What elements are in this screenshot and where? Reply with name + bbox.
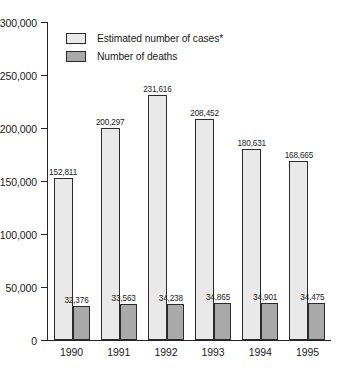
y-axis-tick: 100,000 [41, 234, 47, 235]
y-axis-tick: 250,000 [41, 75, 47, 76]
x-axis-label: 1992 [142, 346, 189, 358]
bar-value-label: 200,297 [96, 118, 125, 127]
y-axis-tick-label: 0 [31, 335, 37, 347]
bar-deaths: 34,475 [308, 303, 325, 340]
y-axis-tick-label: 100,000 [0, 229, 37, 241]
bar-group: 152,81132,376 [48, 22, 95, 340]
bar-value-label: 34,475 [300, 293, 324, 302]
bar-value-label: 180,631 [237, 139, 266, 148]
bar-group: 231,61634,238 [142, 22, 189, 340]
y-axis-tick: 150,000 [41, 181, 47, 182]
bar-cases: 231,616 [148, 95, 167, 341]
bar-cases: 168,665 [289, 161, 308, 340]
x-axis-label: 1990 [48, 346, 95, 358]
bar-value-label: 34,238 [159, 294, 183, 303]
bar-deaths: 34,865 [214, 303, 231, 340]
legend-swatch-deaths [66, 51, 86, 62]
bar-value-label: 168,665 [285, 151, 314, 160]
bar-value-label: 32,376 [64, 296, 88, 305]
y-axis-tick: 200,000 [41, 128, 47, 129]
bar-deaths: 34,901 [261, 303, 278, 340]
y-axis-tick-label: 200,000 [0, 123, 37, 135]
chart-legend: Estimated number of cases* Number of dea… [66, 33, 223, 69]
bar-cases: 180,631 [242, 149, 261, 340]
y-axis-tick-label: 150,000 [0, 176, 37, 188]
bar-group: 168,66534,475 [284, 22, 331, 340]
bar-group: 200,29733,563 [95, 22, 142, 340]
x-axis-label: 1991 [95, 346, 142, 358]
x-axis-label: 1994 [237, 346, 284, 358]
bar-value-label: 34,901 [253, 293, 277, 302]
y-axis-tick: 0 [41, 340, 47, 341]
bar-value-label: 34,865 [206, 293, 230, 302]
legend-swatch-cases [66, 33, 86, 44]
y-axis-tick: 50,000 [41, 287, 47, 288]
bar-cases: 208,452 [195, 119, 214, 340]
bar-deaths: 32,376 [73, 306, 90, 340]
y-axis-tick: 300,000 [41, 22, 47, 23]
legend-label-cases: Estimated number of cases* [97, 33, 223, 44]
bar-deaths: 34,238 [167, 304, 184, 340]
y-axis-tick-label: 50,000 [5, 282, 37, 294]
bar-cases: 152,811 [54, 178, 73, 340]
bar-value-label: 208,452 [190, 109, 219, 118]
plot-area: 152,81132,376200,29733,563231,61634,2382… [48, 22, 331, 340]
bar-value-label: 231,616 [143, 85, 172, 94]
legend-item-deaths: Number of deaths [66, 51, 223, 62]
legend-item-cases: Estimated number of cases* [66, 33, 223, 44]
x-axis-line [47, 340, 331, 341]
x-axis-label: 1995 [284, 346, 331, 358]
y-axis-tick-label: 250,000 [0, 70, 37, 82]
bar-group: 208,45234,865 [190, 22, 237, 340]
bar-value-label: 33,563 [112, 294, 136, 303]
bar-deaths: 33,563 [120, 304, 137, 340]
bar-chart: 050,000100,000150,000200,000250,000300,0… [0, 0, 337, 380]
legend-label-deaths: Number of deaths [97, 51, 177, 62]
bar-cases: 200,297 [101, 128, 120, 340]
bar-group: 180,63134,901 [237, 22, 284, 340]
y-axis-tick-label: 300,000 [0, 17, 37, 29]
x-axis-label: 1993 [190, 346, 237, 358]
bar-value-label: 152,811 [49, 168, 77, 177]
